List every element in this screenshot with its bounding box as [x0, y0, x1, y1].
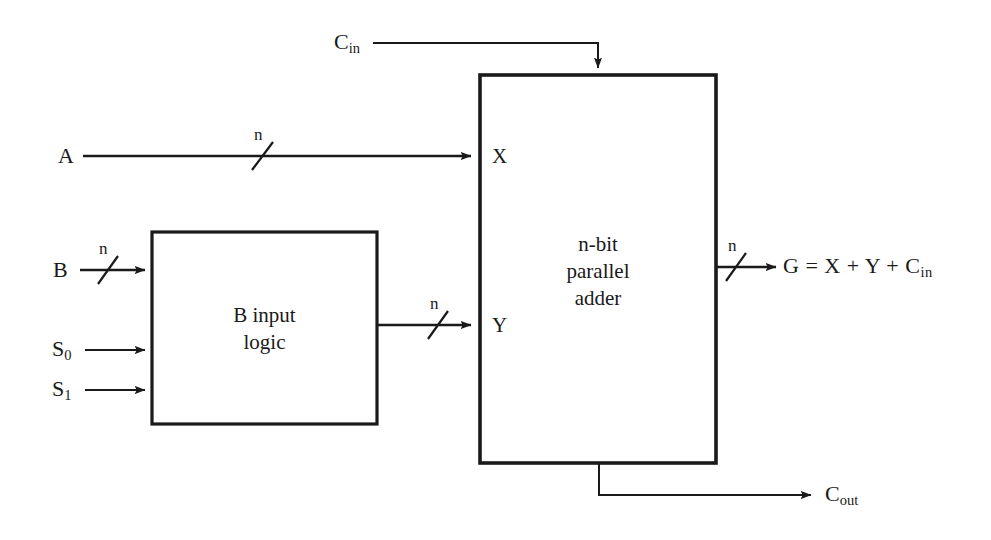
block-label-parallel-adder: n-bit parallel adder: [480, 231, 716, 312]
port-label-y: Y: [492, 315, 507, 336]
block-label-line-1: B input: [152, 302, 377, 329]
wire-cin: [373, 43, 598, 68]
block-label-b-input-logic: B input logic: [152, 302, 377, 356]
label-s0: S0: [52, 338, 72, 360]
label-cin: Cin: [334, 31, 360, 53]
label-output-equation: G = X + Y + Cin: [783, 255, 933, 277]
wire-g-output: [716, 253, 776, 281]
block-label-line-2: parallel: [480, 258, 716, 285]
y-bus-width-label: n: [430, 295, 439, 312]
label-a: A: [58, 145, 74, 167]
block-label-line-1: n-bit: [480, 231, 716, 258]
block-diagram-canvas: Cin A n B n S0 S1 n X Y n G = X + Y + Ci…: [0, 0, 991, 540]
port-label-x: X: [492, 146, 507, 167]
block-label-line-3: adder: [480, 285, 716, 312]
block-label-line-2: logic: [152, 329, 377, 356]
wire-logic-to-y: [377, 311, 471, 339]
label-cout: Cout: [825, 483, 858, 505]
b-bus-width-label: n: [99, 240, 108, 257]
label-s1: S1: [52, 378, 72, 400]
g-bus-width-label: n: [728, 237, 737, 254]
wire-b-to-logic: [80, 256, 145, 284]
a-bus-width-label: n: [254, 126, 263, 143]
wire-a-to-x: [83, 142, 471, 170]
label-b: B: [53, 259, 68, 281]
wire-cout: [599, 463, 811, 495]
